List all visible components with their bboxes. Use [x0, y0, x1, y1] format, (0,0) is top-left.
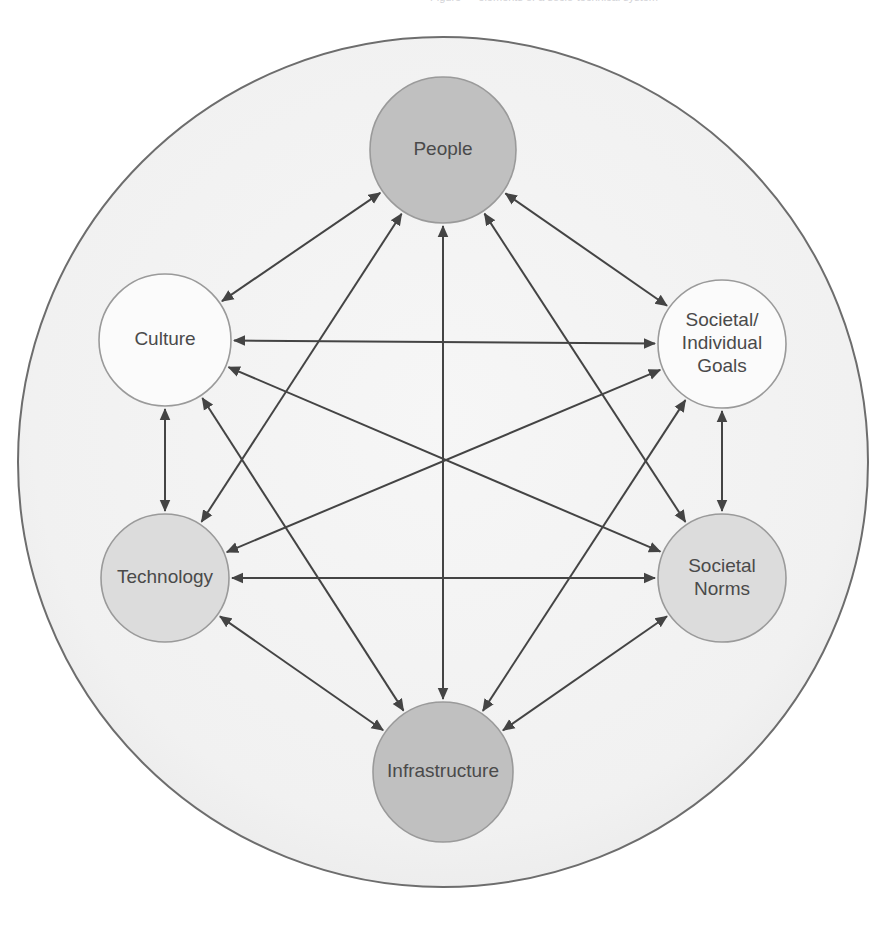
- node-norms[interactable]: SocietalNorms: [658, 514, 786, 642]
- cut-off-caption-text: Figure — elements of a socio-technical s…: [430, 0, 890, 3]
- node-goals[interactable]: Societal/IndividualGoals: [658, 280, 786, 408]
- node-infrastructure[interactable]: Infrastructure: [373, 702, 513, 842]
- node-technology[interactable]: Technology: [101, 514, 229, 642]
- node-label-norms: Norms: [694, 578, 750, 599]
- node-label-goals: Individual: [682, 332, 762, 353]
- node-label-infrastructure: Infrastructure: [387, 760, 499, 781]
- node-label-people: People: [413, 138, 472, 159]
- node-label-technology: Technology: [117, 566, 214, 587]
- node-label-goals: Goals: [697, 355, 747, 376]
- node-people[interactable]: People: [370, 77, 516, 223]
- node-label-goals: Societal/: [686, 309, 760, 330]
- node-label-norms: Societal: [688, 555, 756, 576]
- node-label-culture: Culture: [134, 328, 195, 349]
- socio-technical-diagram: Figure — elements of a socio-technical s…: [0, 0, 896, 930]
- node-culture[interactable]: Culture: [99, 274, 231, 406]
- diagram-canvas: PeopleSocietal/IndividualGoalsSocietalNo…: [0, 0, 896, 930]
